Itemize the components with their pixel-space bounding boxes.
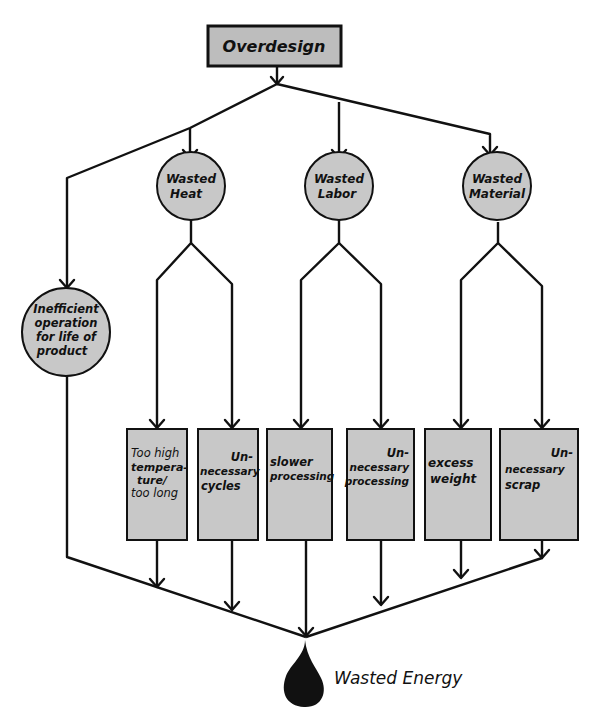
category-branches	[150, 220, 549, 428]
svg-text:weight: weight	[430, 472, 477, 486]
svg-text:necessary: necessary	[505, 463, 566, 475]
svg-text:for life of: for life of	[36, 330, 98, 344]
root-node-overdesign: Overdesign	[208, 26, 341, 66]
svg-text:Wasted: Wasted	[314, 172, 365, 186]
svg-text:processing: processing	[269, 470, 335, 482]
drop-icon	[284, 640, 324, 707]
result-label: Wasted Energy	[334, 668, 463, 688]
cause-box-slower-processing: slower processing	[267, 429, 335, 540]
svg-text:Wasted: Wasted	[166, 172, 217, 186]
cause-box-unnecessary-scrap: Un- necessary scrap	[500, 429, 578, 540]
category-node-heat: Wasted Heat	[157, 152, 225, 220]
svg-text:necessary: necessary	[349, 461, 410, 473]
svg-text:Un-: Un-	[231, 450, 254, 464]
svg-text:cycles: cycles	[201, 479, 241, 493]
cause-box-unnecessary-processing: Un- necessary processing	[344, 429, 414, 540]
svg-text:Wasted: Wasted	[472, 172, 523, 186]
svg-text:too long: too long	[131, 486, 178, 500]
result-wasted-energy: Wasted Energy	[284, 640, 463, 707]
svg-text:Heat: Heat	[170, 187, 203, 201]
root-branches	[60, 84, 497, 288]
inefficient-operation-node: Inefficient operation for life of produc…	[22, 288, 110, 376]
svg-text:operation: operation	[35, 316, 98, 330]
root-arrow	[271, 66, 283, 84]
svg-text:Labor: Labor	[318, 187, 358, 201]
category-node-material: Wasted Material	[463, 152, 531, 220]
svg-text:excess: excess	[428, 456, 473, 470]
svg-text:product: product	[36, 344, 88, 358]
svg-text:Material: Material	[469, 187, 526, 201]
svg-text:Un-: Un-	[387, 446, 410, 460]
cause-box-too-high-temperature: Too high tempera- ture/ too long	[127, 429, 188, 540]
svg-text:scrap: scrap	[505, 478, 540, 492]
svg-text:processing: processing	[344, 475, 410, 487]
cause-box-excess-weight: excess weight	[425, 429, 491, 540]
svg-text:Too high: Too high	[131, 446, 179, 460]
cause-box-unnecessary-cycles: Un- necessary cycles	[198, 429, 261, 540]
overdesign-flow-diagram: Overdesign Wasted Heat Wasted Labor Wast…	[0, 0, 596, 726]
svg-text:Inefficient: Inefficient	[33, 302, 99, 316]
category-node-labor: Wasted Labor	[305, 152, 373, 220]
svg-text:tempera-: tempera-	[131, 461, 188, 474]
root-label: Overdesign	[223, 37, 326, 56]
svg-text:Un-: Un-	[551, 446, 574, 460]
svg-text:necessary: necessary	[200, 465, 261, 477]
svg-text:slower: slower	[270, 455, 314, 469]
